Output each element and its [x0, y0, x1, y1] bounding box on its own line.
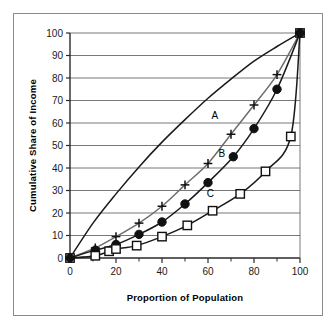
y-tick-label-60: 60	[52, 118, 64, 129]
marker-square	[208, 207, 216, 215]
x-tick-label-40: 40	[156, 266, 168, 277]
y-tick-label-50: 50	[52, 140, 64, 151]
marker-square	[261, 167, 269, 175]
marker-circle	[204, 178, 212, 186]
y-tick-label-100: 100	[46, 28, 63, 39]
y-tick-label-30: 30	[52, 185, 64, 196]
marker-square	[91, 252, 99, 260]
x-axis-title: Proportion of Population	[127, 292, 244, 303]
marker-circle	[135, 230, 143, 238]
x-tick-label-80: 80	[248, 266, 260, 277]
y-tick-label-40: 40	[52, 163, 64, 174]
marker-square	[112, 245, 120, 253]
y-tick-label-90: 90	[52, 50, 64, 61]
marker-circle	[181, 200, 189, 208]
lorenz-curve-plot: 0102030405060708090100020406080100ABCPro…	[0, 0, 336, 329]
y-tick-label-70: 70	[52, 95, 64, 106]
chart-figure: 0102030405060708090100020406080100ABCPro…	[0, 0, 336, 329]
marker-square	[158, 232, 166, 240]
marker-circle	[158, 218, 166, 226]
series-label-c: C	[207, 188, 214, 199]
x-axis-ticks: 020406080100	[67, 258, 309, 277]
marker-origin	[66, 254, 75, 263]
y-axis-ticks: 0102030405060708090100	[46, 28, 70, 264]
y-tick-label-0: 0	[57, 253, 63, 264]
marker-square	[183, 221, 191, 229]
x-tick-label-100: 100	[292, 266, 309, 277]
marker-square	[236, 190, 244, 198]
marker-circle	[250, 124, 258, 132]
marker-circle	[229, 153, 237, 161]
x-tick-label-60: 60	[202, 266, 214, 277]
marker-circle	[273, 85, 281, 93]
marker-square	[287, 132, 295, 140]
marker-square	[133, 241, 141, 249]
marker-endpoint	[295, 28, 304, 37]
x-tick-label-0: 0	[67, 266, 73, 277]
series-label-b: B	[218, 148, 225, 159]
y-tick-label-10: 10	[52, 230, 64, 241]
series-label-a: A	[212, 110, 219, 121]
y-axis-title: Cumulative Share of Income	[27, 79, 38, 212]
y-tick-label-80: 80	[52, 73, 64, 84]
y-tick-label-20: 20	[52, 208, 64, 219]
x-tick-label-20: 20	[110, 266, 122, 277]
